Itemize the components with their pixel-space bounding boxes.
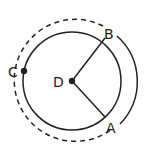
point-C bbox=[21, 68, 27, 74]
outer-solid-arc bbox=[117, 36, 137, 124]
radius-DA bbox=[72, 81, 105, 117]
point-D bbox=[69, 78, 75, 84]
label-A: A bbox=[106, 120, 116, 136]
radius-DB bbox=[72, 38, 105, 81]
label-C: C bbox=[8, 64, 18, 80]
geometry-diagram: C D B A bbox=[0, 0, 145, 151]
label-D: D bbox=[53, 74, 64, 90]
label-B: B bbox=[104, 26, 114, 42]
diagram-canvas: C D B A bbox=[0, 0, 145, 151]
